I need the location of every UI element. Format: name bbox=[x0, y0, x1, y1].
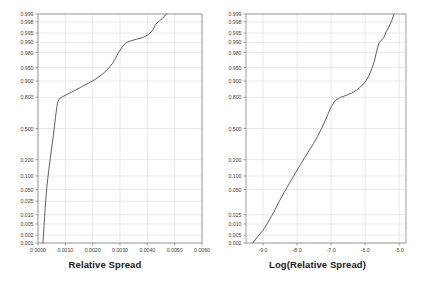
y-tick: 0.900 bbox=[229, 78, 246, 84]
x-tick: 0.0040 bbox=[139, 243, 155, 253]
y-tick: 0.950 bbox=[229, 65, 246, 71]
svg-text:0.0000: 0.0000 bbox=[30, 247, 46, 253]
y-tick: 0.900 bbox=[21, 78, 38, 84]
svg-text:0.990: 0.990 bbox=[229, 39, 242, 45]
y-tick: 0.005 bbox=[229, 232, 246, 238]
x-tick: -9.0 bbox=[259, 243, 268, 253]
svg-text:0.200: 0.200 bbox=[229, 157, 242, 163]
y-tick: 0.990 bbox=[229, 39, 246, 45]
svg-text:0.010: 0.010 bbox=[229, 221, 242, 227]
y-tick: 0.025 bbox=[229, 212, 246, 218]
svg-text:0.025: 0.025 bbox=[21, 198, 34, 204]
y-tick: 0.001 bbox=[21, 240, 38, 246]
svg-text:-9.0: -9.0 bbox=[259, 247, 268, 253]
svg-text:0.800: 0.800 bbox=[21, 94, 34, 100]
svg-text:0.050: 0.050 bbox=[21, 187, 34, 193]
y-tick: 0.980 bbox=[21, 50, 38, 56]
svg-text:0.995: 0.995 bbox=[21, 30, 34, 36]
svg-text:0.050: 0.050 bbox=[229, 187, 242, 193]
x-tick: -5.0 bbox=[395, 243, 404, 253]
y-tick: 0.998 bbox=[229, 19, 246, 25]
y-tick: 0.010 bbox=[229, 221, 246, 227]
y-tick: 0.200 bbox=[21, 157, 38, 163]
svg-text:0.950: 0.950 bbox=[229, 65, 242, 71]
chart-panel-relative-spread: 0.9990.9980.9950.9900.9800.9500.9000.800… bbox=[0, 0, 210, 287]
svg-text:-5.0: -5.0 bbox=[395, 247, 404, 253]
svg-text:0.0060: 0.0060 bbox=[194, 247, 210, 253]
svg-text:0.0040: 0.0040 bbox=[139, 247, 155, 253]
svg-text:0.999: 0.999 bbox=[21, 11, 34, 17]
svg-text:0.990: 0.990 bbox=[21, 39, 34, 45]
svg-text:0.998: 0.998 bbox=[229, 19, 242, 25]
svg-text:-7.0: -7.0 bbox=[327, 247, 336, 253]
y-tick: 0.100 bbox=[229, 173, 246, 179]
svg-text:0.0050: 0.0050 bbox=[167, 247, 183, 253]
svg-text:0.900: 0.900 bbox=[229, 78, 242, 84]
y-tick: 0.990 bbox=[21, 39, 38, 45]
y-tick: 0.800 bbox=[21, 94, 38, 100]
svg-text:-6.0: -6.0 bbox=[361, 247, 370, 253]
x-axis-title-left: Relative Spread bbox=[0, 259, 210, 270]
y-tick: 0.050 bbox=[229, 187, 246, 193]
figure-root: 0.9990.9980.9950.9900.9800.9500.9000.800… bbox=[0, 0, 425, 287]
y-tick: 0.500 bbox=[21, 126, 38, 132]
y-tick: 0.100 bbox=[21, 173, 38, 179]
svg-text:0.998: 0.998 bbox=[21, 19, 34, 25]
y-tick: 0.500 bbox=[229, 126, 246, 132]
x-tick: 0.0050 bbox=[167, 243, 183, 253]
y-tick: 0.998 bbox=[21, 19, 38, 25]
x-tick: -8.0 bbox=[293, 243, 302, 253]
y-tick: 0.010 bbox=[21, 212, 38, 218]
svg-text:0.005: 0.005 bbox=[229, 232, 242, 238]
y-tick: 0.950 bbox=[21, 65, 38, 71]
plot-canvas-relative-spread: 0.9990.9980.9950.9900.9800.9500.9000.800… bbox=[0, 0, 210, 258]
x-tick: 0.0030 bbox=[112, 243, 128, 253]
svg-text:0.025: 0.025 bbox=[229, 212, 242, 218]
y-tick: 0.200 bbox=[229, 157, 246, 163]
y-tick: 0.025 bbox=[21, 198, 38, 204]
y-tick: 0.980 bbox=[229, 50, 246, 56]
svg-text:0.002: 0.002 bbox=[229, 240, 242, 246]
svg-text:0.500: 0.500 bbox=[229, 126, 242, 132]
y-tick: 0.995 bbox=[21, 30, 38, 36]
svg-text:0.950: 0.950 bbox=[21, 65, 34, 71]
y-tick: 0.002 bbox=[21, 232, 38, 238]
svg-text:-8.0: -8.0 bbox=[293, 247, 302, 253]
y-tick: 0.050 bbox=[21, 187, 38, 193]
y-tick: 0.005 bbox=[21, 221, 38, 227]
plot-canvas-log-relative-spread: 0.9990.9980.9950.9900.9800.9500.9000.800… bbox=[210, 0, 425, 258]
svg-text:0.900: 0.900 bbox=[21, 78, 34, 84]
x-tick: 0.0010 bbox=[57, 243, 73, 253]
svg-text:0.200: 0.200 bbox=[21, 157, 34, 163]
svg-text:0.0010: 0.0010 bbox=[57, 247, 73, 253]
svg-text:0.005: 0.005 bbox=[21, 221, 34, 227]
chart-panel-log-relative-spread: 0.9990.9980.9950.9900.9800.9500.9000.800… bbox=[210, 0, 425, 287]
svg-text:0.800: 0.800 bbox=[229, 94, 242, 100]
y-tick: 0.002 bbox=[229, 240, 246, 246]
svg-text:0.100: 0.100 bbox=[229, 173, 242, 179]
svg-text:0.500: 0.500 bbox=[21, 126, 34, 132]
x-axis-title-right: Log(Relative Spread) bbox=[210, 259, 425, 270]
svg-text:0.010: 0.010 bbox=[21, 212, 34, 218]
y-tick: 0.999 bbox=[229, 11, 246, 17]
y-tick: 0.800 bbox=[229, 94, 246, 100]
svg-text:0.0030: 0.0030 bbox=[112, 247, 128, 253]
y-tick: 0.999 bbox=[21, 11, 38, 17]
x-tick: -7.0 bbox=[327, 243, 336, 253]
x-tick: -6.0 bbox=[361, 243, 370, 253]
x-tick: 0.0060 bbox=[194, 243, 210, 253]
svg-text:0.995: 0.995 bbox=[229, 30, 242, 36]
svg-text:0.999: 0.999 bbox=[229, 11, 242, 17]
svg-text:0.002: 0.002 bbox=[21, 232, 34, 238]
svg-text:0.980: 0.980 bbox=[21, 50, 34, 56]
y-tick: 0.995 bbox=[229, 30, 246, 36]
svg-text:0.001: 0.001 bbox=[21, 240, 34, 246]
svg-text:0.0020: 0.0020 bbox=[85, 247, 101, 253]
svg-text:0.980: 0.980 bbox=[229, 50, 242, 56]
svg-text:0.100: 0.100 bbox=[21, 173, 34, 179]
x-tick: 0.0020 bbox=[85, 243, 101, 253]
